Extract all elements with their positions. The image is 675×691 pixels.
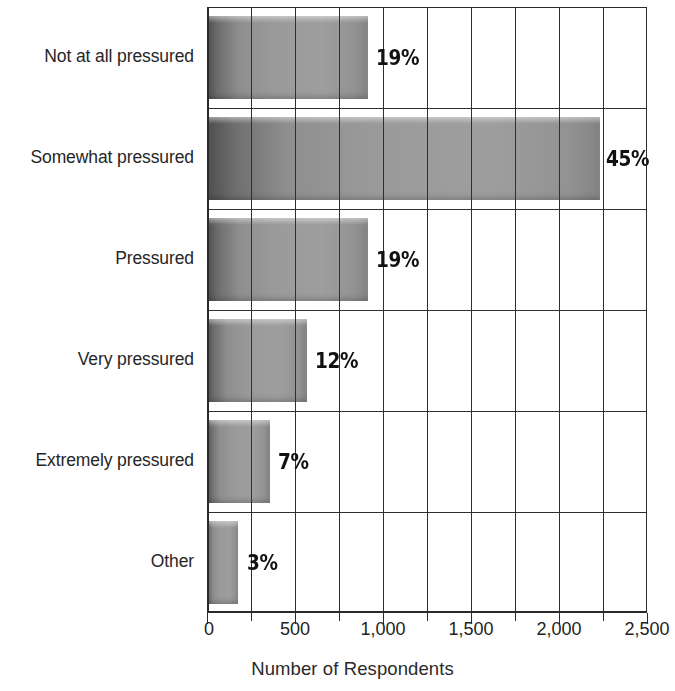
- value-gridline: [295, 7, 296, 613]
- category-label-extremely-pressured: Extremely pressured: [0, 452, 194, 470]
- value-gridline: [251, 7, 252, 613]
- category-label-very-pressured: Very pressured: [0, 351, 194, 369]
- axis-tick-label-0: 0: [204, 620, 214, 638]
- bar-other: [207, 521, 238, 604]
- value-gridline: [515, 7, 516, 613]
- value-gridline: [471, 7, 472, 613]
- bar-value-label-very-pressured: 12%: [315, 350, 358, 372]
- category-axis-labels: Not at all pressured Somewhat pressured …: [0, 7, 198, 613]
- value-gridline: [383, 7, 384, 613]
- value-gridline: [603, 7, 604, 613]
- axis-tick-label-500: 500: [280, 620, 310, 638]
- bar-value-label-pressured: 19%: [376, 249, 419, 271]
- plot-area: 19% 45% 19% 12% 7% 3%: [207, 7, 647, 613]
- value-axis-title-wrap: Number of Respondents: [0, 660, 675, 679]
- category-label-pressured: Pressured: [0, 250, 194, 268]
- value-gridline: [339, 7, 340, 613]
- value-gridline: [559, 7, 560, 613]
- bar-value-label-not-at-all-pressured: 19%: [376, 47, 419, 69]
- axis-tick-label-1000: 1,000: [360, 620, 405, 638]
- horizontal-bar-chart: Not at all pressured Somewhat pressured …: [0, 0, 675, 691]
- axis-tick-label-1500: 1,500: [448, 620, 493, 638]
- value-axis-tick-labels: 0 500 1,000 1,500 2,000 2,500: [0, 620, 675, 648]
- category-label-not-at-all-pressured: Not at all pressured: [0, 48, 194, 66]
- bar-value-label-other: 3%: [247, 552, 278, 574]
- value-gridline: [427, 7, 428, 613]
- axis-tick-label-2000: 2,000: [536, 620, 581, 638]
- bar-very-pressured: [207, 319, 307, 402]
- bar-value-label-extremely-pressured: 7%: [278, 451, 309, 473]
- axis-tick-label-2500: 2,500: [624, 620, 669, 638]
- bar-value-label-somewhat-pressured: 45%: [606, 148, 649, 170]
- category-label-other: Other: [0, 553, 194, 571]
- bar-extremely-pressured: [207, 420, 270, 503]
- bar-not-at-all-pressured: [207, 16, 368, 99]
- value-axis-title: Number of Respondents: [251, 660, 454, 679]
- bar-pressured: [207, 218, 368, 301]
- category-label-somewhat-pressured: Somewhat pressured: [0, 149, 194, 167]
- bar-somewhat-pressured: [207, 117, 600, 200]
